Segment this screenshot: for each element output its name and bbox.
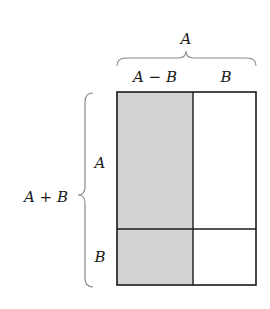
- row-label-b: B: [93, 248, 105, 266]
- top-brace-icon: [117, 51, 256, 66]
- shaded-column-a-minus-b: [117, 92, 193, 285]
- left-brace-icon: [78, 93, 93, 287]
- row-label-a: A: [93, 154, 106, 172]
- column-label-a-minus-b: A − B: [131, 68, 177, 86]
- unshaded-column-b: [193, 92, 256, 285]
- column-label-b: B: [219, 68, 231, 86]
- left-brace-label: A + B: [22, 188, 68, 206]
- area-model-diagram: A A − B B A + B A B: [0, 0, 270, 309]
- top-brace-label: A: [179, 30, 192, 48]
